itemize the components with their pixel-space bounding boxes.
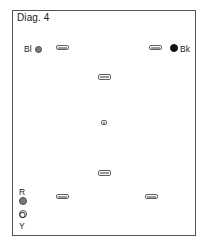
diagram-root: Diag. 4 Bl Bk R O Y (0, 0, 205, 247)
pill-center (101, 120, 107, 125)
label-bk: Bk (180, 45, 190, 54)
pill-bottom-right (145, 194, 158, 199)
pill-upper-center (98, 74, 111, 80)
label-o: O (19, 211, 26, 220)
pill-top-right (149, 45, 162, 50)
pill-lower-center (98, 170, 111, 176)
label-bl: Bl (24, 45, 32, 54)
circle-bk-black (170, 44, 178, 52)
label-y: Y (19, 222, 25, 231)
label-r: R (19, 188, 25, 197)
pill-top-left (56, 45, 69, 50)
circle-r-filled (19, 197, 27, 205)
circle-bl-gray (35, 46, 42, 53)
pill-bottom-left (56, 194, 69, 199)
diagram-title: Diag. 4 (17, 12, 49, 24)
